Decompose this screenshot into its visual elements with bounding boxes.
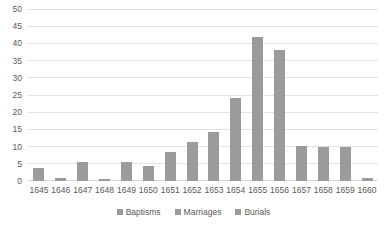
y-tick-label: 0 [17,177,22,186]
bar-slot [334,10,356,181]
chart-legend: BaptismsMarriagesBurials [0,204,387,220]
bar[interactable] [362,178,373,181]
x-tick-label: 1650 [137,182,159,198]
y-tick-label: 5 [17,160,22,169]
bar[interactable] [252,37,263,181]
y-tick-label: 35 [13,56,22,65]
legend-entry[interactable]: Baptisms [117,208,161,217]
x-tick-label: 1652 [181,182,203,198]
legend-swatch-icon [235,209,241,215]
bar[interactable] [208,132,219,181]
x-tick-label: 1654 [225,182,247,198]
x-tick-label: 1659 [334,182,356,198]
y-axis: 50454035302520151050 [0,9,26,181]
bar[interactable] [318,147,329,181]
bar[interactable] [187,142,198,181]
bar[interactable] [296,146,307,181]
x-axis: 1645164616471648164916501651165216531654… [28,182,378,198]
bar-slot [203,10,225,181]
bar-slot [312,10,334,181]
bar[interactable] [143,166,154,181]
bar[interactable] [33,168,44,181]
bar[interactable] [99,179,110,181]
x-tick-label: 1647 [72,182,94,198]
x-tick-label: 1648 [94,182,116,198]
legend-swatch-icon [117,209,123,215]
x-tick-label: 1653 [203,182,225,198]
x-tick-label: 1646 [50,182,72,198]
bar-chart: 50454035302520151050 1645164616471648164… [0,0,387,228]
bar-slot [72,10,94,181]
bar-slot [356,10,378,181]
x-tick-label: 1651 [159,182,181,198]
bar[interactable] [121,162,132,181]
legend-label: Baptisms [126,208,161,217]
bar-slot [94,10,116,181]
bar-slot [28,10,50,181]
plot-area [28,9,378,181]
bar[interactable] [230,98,241,181]
bar-slot [225,10,247,181]
bar-slot [116,10,138,181]
legend-label: Marriages [184,208,222,217]
bar-series-group [28,10,378,181]
y-tick-label: 10 [13,142,22,151]
bar-slot [291,10,313,181]
legend-entry[interactable]: Burials [235,208,270,217]
x-tick-label: 1658 [312,182,334,198]
bar-slot [50,10,72,181]
y-tick-label: 25 [13,91,22,100]
x-tick-label: 1655 [247,182,269,198]
y-tick-label: 15 [13,125,22,134]
x-tick-label: 1645 [28,182,50,198]
bar-slot [137,10,159,181]
bar[interactable] [274,50,285,181]
bar[interactable] [77,162,88,181]
bar-slot [269,10,291,181]
legend-swatch-icon [175,209,181,215]
y-tick-label: 45 [13,22,22,31]
y-tick-label: 50 [13,5,22,14]
y-tick-label: 20 [13,108,22,117]
bar-slot [247,10,269,181]
bar[interactable] [55,178,66,181]
y-tick-label: 40 [13,39,22,48]
bar[interactable] [340,147,351,181]
bar[interactable] [165,152,176,181]
x-tick-label: 1657 [291,182,313,198]
x-tick-label: 1660 [356,182,378,198]
legend-label: Burials [244,208,270,217]
legend-entry[interactable]: Marriages [175,208,222,217]
bar-slot [181,10,203,181]
x-tick-label: 1656 [269,182,291,198]
y-tick-label: 30 [13,74,22,83]
x-tick-label: 1649 [116,182,138,198]
plot-region [28,9,378,181]
bar-slot [159,10,181,181]
